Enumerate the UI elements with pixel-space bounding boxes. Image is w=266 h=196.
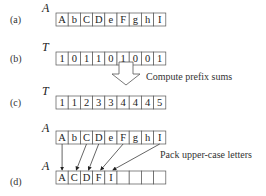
array-d: ACDFI — [56, 171, 166, 184]
array-cell-value: 0 — [108, 53, 113, 64]
array-cell-value: C — [83, 14, 90, 25]
row-label-a: (a) — [10, 14, 21, 26]
array-cell-value: 0 — [72, 53, 77, 64]
array-cell-value: 0 — [145, 53, 150, 64]
array-cell-value: F — [120, 132, 126, 143]
array-cell-value: h — [145, 132, 151, 143]
array-cell-value: A — [58, 132, 66, 143]
array-cell-value: F — [120, 14, 126, 25]
array-cell-value: 1 — [59, 53, 64, 64]
row-label-b: (b) — [10, 53, 22, 65]
array-cell-value: b — [72, 132, 77, 143]
prefix-sum-pack-diagram: (a) (b) (c) (d) A T T A A AbCDeFghI 1011… — [0, 0, 266, 196]
row-label-c: (c) — [10, 97, 21, 109]
array-cell-value: 0 — [133, 53, 138, 64]
array-cell — [129, 171, 141, 184]
array-cell-value: D — [95, 14, 103, 25]
array-name-b: T — [42, 40, 50, 54]
pack-upper-case-label: Pack upper-case letters — [160, 149, 252, 160]
array-a: AbCDeFghI — [56, 13, 166, 26]
compute-prefix-sums-label: Compute prefix sums — [146, 71, 232, 82]
array-cell-value: A — [58, 14, 66, 25]
array-name-d: A — [41, 159, 50, 173]
array-cell-value: I — [158, 132, 162, 143]
array-cell-value: 4 — [133, 97, 139, 108]
array-source: AbCDeFghI — [56, 131, 166, 144]
array-cell-value: D — [95, 132, 103, 143]
array-cell-value: 1 — [59, 97, 64, 108]
array-cell-value: g — [133, 14, 139, 25]
array-cell — [154, 171, 166, 184]
array-cell-value: 4 — [120, 97, 126, 108]
array-cell-value: 2 — [84, 97, 89, 108]
down-arrow-icon — [112, 62, 140, 85]
pack-arrow — [89, 144, 99, 170]
array-cell-value: F — [96, 172, 102, 183]
array-cell-value: 3 — [108, 97, 113, 108]
array-cell-value: e — [109, 132, 114, 143]
array-cell-value: I — [158, 14, 162, 25]
array-b: 101101001 — [56, 52, 166, 65]
array-cell-value: 1 — [84, 53, 89, 64]
array-cell-value: A — [58, 172, 66, 183]
array-cell-value: I — [109, 172, 113, 183]
array-c: 112334445 — [56, 96, 166, 109]
array-cell-value: g — [133, 132, 139, 143]
array-cell-value: 4 — [145, 97, 151, 108]
array-cell-value: C — [71, 172, 78, 183]
row-label-d: (d) — [10, 176, 22, 188]
array-cell-value: C — [83, 132, 90, 143]
array-cell — [141, 171, 153, 184]
pack-arrows — [62, 144, 160, 170]
array-cell-value: 1 — [72, 97, 77, 108]
array-name-src: A — [41, 121, 50, 135]
array-cell-value: D — [83, 172, 91, 183]
array-cell-value: 5 — [157, 97, 162, 108]
array-cell — [117, 171, 129, 184]
array-cell-value: h — [145, 14, 151, 25]
array-name-a: A — [41, 1, 50, 15]
array-cell-value: 1 — [96, 53, 101, 64]
pack-arrow — [76, 144, 86, 170]
array-cell-value: e — [109, 14, 114, 25]
array-name-c: T — [42, 84, 50, 98]
array-cell-value: 3 — [96, 97, 101, 108]
array-cell-value: b — [72, 14, 77, 25]
array-cell-value: 1 — [157, 53, 162, 64]
